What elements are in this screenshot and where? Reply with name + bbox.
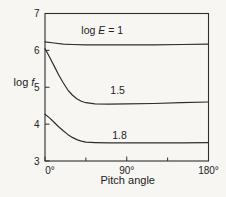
- x-tick-label: 0°: [45, 165, 55, 176]
- curve-label-series-2: 1.8: [112, 129, 127, 141]
- y-tick-label: 7: [34, 8, 40, 19]
- curve-label-series-1: 1.5: [110, 84, 125, 96]
- curve-series-0: [45, 42, 209, 45]
- y-axis-title: log f: [14, 76, 36, 88]
- y-tick-label: 6: [34, 45, 40, 56]
- y-tick-label: 4: [34, 119, 40, 130]
- y-tick-label: 3: [34, 156, 40, 167]
- x-axis-title: Pitch angle: [101, 174, 155, 186]
- chart-canvas: 765430°90°180°log E = 11.51.8log fPitch …: [0, 0, 226, 197]
- x-tick-label: 180°: [198, 165, 219, 176]
- chart-figure: 765430°90°180°log E = 11.51.8log fPitch …: [0, 0, 226, 197]
- curve-label-series-0: log E = 1: [81, 24, 123, 36]
- y-tick-label: 5: [34, 82, 40, 93]
- curve-series-1: [45, 49, 209, 105]
